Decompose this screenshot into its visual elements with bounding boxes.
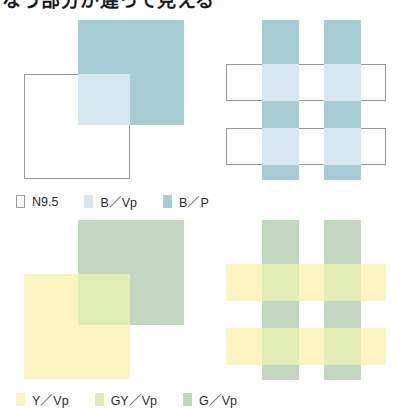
panel-blue-plaid-weave — [212, 16, 402, 186]
legend-blue: N9.5 B／Vp B／P — [16, 192, 235, 211]
intersection-2-2-gy-vp — [324, 328, 361, 365]
legend-swatch — [16, 195, 25, 208]
legend-item: G／Vp — [183, 390, 237, 409]
intersection-2-2-b-vp — [324, 128, 361, 165]
intersection-2-1-b-vp — [324, 64, 361, 101]
legend-label: G／Vp — [199, 390, 237, 409]
overlap-composition — [10, 216, 190, 386]
horizontal-band-2-y-vp — [226, 328, 386, 365]
legend-item: B／Vp — [84, 192, 137, 211]
page-title: なう部分が違って見える — [2, 0, 215, 12]
legend-swatch — [163, 195, 172, 208]
intersection-1-2-gy-vp — [262, 328, 299, 365]
intersection-2-1-gy-vp — [324, 264, 361, 301]
legend-swatch — [95, 393, 104, 406]
legend-label: N9.5 — [32, 195, 58, 209]
legend-item: N9.5 — [16, 195, 58, 209]
legend-item: Y／Vp — [16, 390, 69, 409]
legend-label: B／Vp — [100, 192, 137, 211]
panel-blue-overlapping-squares — [10, 16, 190, 186]
legend-swatch — [84, 195, 93, 208]
intersection-1-1-gy-vp — [262, 264, 299, 301]
legend-item: GY／Vp — [95, 390, 157, 409]
plaid-composition — [212, 16, 402, 186]
overlap-composition — [10, 16, 190, 186]
horizontal-band-1-y-vp — [226, 264, 386, 301]
legend-item: B／P — [163, 192, 209, 211]
horizontal-band-2-n95 — [226, 128, 386, 165]
legend-label: GY／Vp — [111, 390, 157, 409]
panel-yellow-green-plaid-weave — [212, 216, 402, 386]
legend-label: B／P — [179, 192, 209, 211]
intersection-1-2-b-vp — [262, 128, 299, 165]
heading-clip: なう部分が違って見える — [0, 0, 410, 14]
legend-swatch — [183, 393, 192, 406]
overlap-region-b-vp — [78, 74, 130, 125]
legend-swatch — [16, 393, 25, 406]
overlap-region-gy-vp — [78, 274, 130, 325]
horizontal-band-1-n95 — [226, 64, 386, 101]
panel-yellow-green-overlapping-squares — [10, 216, 190, 386]
legend-yellow-green: Y／Vp GY／Vp G／Vp — [16, 390, 263, 409]
legend-label: Y／Vp — [32, 390, 69, 409]
plaid-composition — [212, 216, 402, 386]
intersection-1-1-b-vp — [262, 64, 299, 101]
